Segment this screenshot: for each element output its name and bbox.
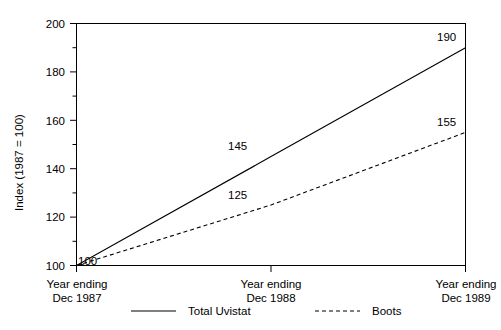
data-label-mid-145: 145 — [228, 139, 247, 153]
y-tick-label-120: 120 — [31, 210, 65, 224]
legend-label-boots: Boots — [372, 304, 401, 318]
y-tick-label-180: 180 — [31, 65, 65, 79]
x-tick-label-1989-line2: Dec 1989 — [411, 291, 501, 305]
plot-frame — [77, 24, 466, 266]
y-tick-label-200: 200 — [31, 17, 65, 31]
y-tick-label-140: 140 — [31, 162, 65, 176]
legend-label-total-uvistat: Total Uvistat — [188, 304, 251, 318]
x-tick-label-1988-line2: Dec 1988 — [216, 291, 326, 305]
data-label-mid-125: 125 — [228, 188, 247, 202]
series-line-boots — [77, 132, 466, 265]
series-line-total-uvistat — [77, 48, 466, 266]
data-label-end-155: 155 — [437, 115, 456, 129]
x-axis-ticks — [77, 266, 466, 273]
y-axis-title: Index (1987 = 100) — [12, 114, 26, 211]
data-label-origin-100: 100 — [78, 254, 97, 268]
x-tick-label-1988-line1: Year ending — [216, 277, 326, 291]
y-axis-minor-ticks — [73, 48, 77, 242]
x-tick-label-1989-line1: Year ending — [411, 277, 501, 291]
data-label-end-190: 190 — [437, 30, 456, 44]
y-tick-label-100: 100 — [31, 259, 65, 273]
x-tick-label-1987-line1: Year ending — [22, 277, 132, 291]
y-tick-label-160: 160 — [31, 114, 65, 128]
x-tick-label-1987-line2: Dec 1987 — [22, 291, 132, 305]
